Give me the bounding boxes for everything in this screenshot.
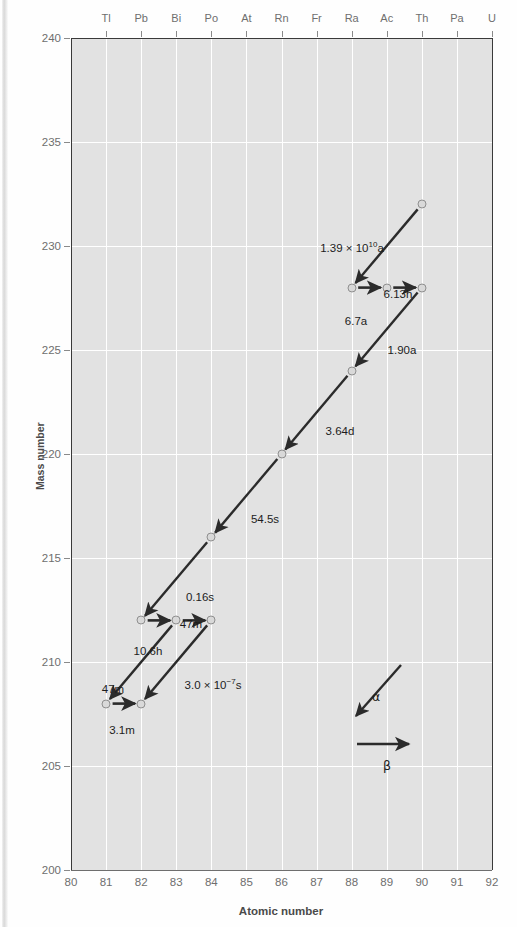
legend-symbol-beta: β bbox=[383, 758, 391, 773]
tick-top bbox=[387, 31, 388, 37]
nuclide-node[interactable] bbox=[207, 616, 216, 625]
halflife-mantissa: 3.0 × 10 bbox=[185, 679, 227, 691]
nuclide-node[interactable] bbox=[137, 616, 146, 625]
nuclide-node[interactable] bbox=[347, 366, 356, 375]
tick-left bbox=[64, 558, 70, 559]
nuclide-node[interactable] bbox=[102, 699, 111, 708]
element-symbol-label: Pb bbox=[134, 12, 147, 24]
y-tick-label: 215 bbox=[31, 552, 61, 564]
tick-top bbox=[457, 31, 458, 37]
x-axis-line bbox=[71, 870, 492, 871]
y-tick-label: 235 bbox=[31, 136, 61, 148]
x-tick-label: 87 bbox=[310, 876, 323, 888]
nuclide-node[interactable] bbox=[417, 283, 426, 292]
page-edge-strip bbox=[2, 0, 8, 927]
halflife-exponent: 10 bbox=[368, 240, 377, 249]
halflife-label: 47m bbox=[102, 683, 124, 695]
tick-top bbox=[492, 31, 493, 37]
gridline-horizontal bbox=[71, 142, 492, 143]
nuclide-node[interactable] bbox=[417, 200, 426, 209]
x-tick-label: 91 bbox=[451, 876, 464, 888]
tick-left bbox=[64, 38, 70, 39]
element-symbol-label: Tl bbox=[101, 12, 110, 24]
element-symbol-label: Pa bbox=[450, 12, 463, 24]
tick-top bbox=[141, 31, 142, 37]
halflife-label: 47m bbox=[180, 618, 202, 630]
element-symbol-label: Rn bbox=[274, 12, 288, 24]
tick-top bbox=[246, 31, 247, 37]
gridline-horizontal bbox=[71, 662, 492, 663]
halflife-label: 1.39 × 1010a bbox=[320, 240, 384, 254]
tick-top bbox=[106, 31, 107, 37]
halflife-label: 0.16s bbox=[186, 591, 214, 603]
y-tick-label: 230 bbox=[31, 240, 61, 252]
halflife-label: 3.1m bbox=[109, 724, 135, 736]
nuclide-node[interactable] bbox=[277, 450, 286, 459]
x-tick-label: 80 bbox=[65, 876, 78, 888]
gridline-horizontal bbox=[71, 246, 492, 247]
tick-left bbox=[64, 142, 70, 143]
halflife-label: 3.0 × 10−7s bbox=[185, 677, 242, 691]
element-symbol-label: Ac bbox=[380, 12, 393, 24]
tick-top bbox=[176, 31, 177, 37]
nuclide-node[interactable] bbox=[207, 533, 216, 542]
halflife-label: 1.90a bbox=[388, 344, 417, 356]
y-tick-label: 205 bbox=[31, 760, 61, 772]
y-tick-label: 240 bbox=[31, 32, 61, 44]
halflife-label: 3.64d bbox=[326, 425, 355, 437]
x-tick-label: 84 bbox=[205, 876, 218, 888]
x-tick-label: 92 bbox=[486, 876, 499, 888]
x-tick-label: 89 bbox=[380, 876, 393, 888]
x-tick-label: 85 bbox=[240, 876, 253, 888]
tick-top bbox=[422, 31, 423, 37]
element-symbol-label: At bbox=[241, 12, 251, 24]
tick-left bbox=[64, 766, 70, 767]
x-tick-label: 90 bbox=[415, 876, 428, 888]
x-tick-label: 81 bbox=[100, 876, 113, 888]
tick-left bbox=[64, 246, 70, 247]
tick-left bbox=[64, 454, 70, 455]
gridline-horizontal bbox=[71, 350, 492, 351]
halflife-label: 10.6h bbox=[134, 645, 163, 657]
gridline-horizontal bbox=[71, 766, 492, 767]
element-symbol-label: Po bbox=[205, 12, 218, 24]
y-tick-label: 210 bbox=[31, 656, 61, 668]
halflife-unit: a bbox=[377, 242, 383, 254]
element-symbol-label: U bbox=[488, 12, 496, 24]
plot-frame-top bbox=[71, 38, 492, 39]
x-axis-title: Atomic number bbox=[239, 905, 323, 917]
element-symbol-label: Bi bbox=[171, 12, 181, 24]
element-symbol-label: Fr bbox=[311, 12, 321, 24]
x-tick-label: 88 bbox=[345, 876, 358, 888]
tick-top bbox=[211, 31, 212, 37]
y-tick-label: 225 bbox=[31, 344, 61, 356]
tick-left bbox=[64, 350, 70, 351]
tick-left bbox=[64, 662, 70, 663]
gridline-horizontal bbox=[71, 558, 492, 559]
halflife-unit: s bbox=[236, 679, 242, 691]
y-axis-title: Mass number bbox=[34, 422, 46, 490]
halflife-mantissa: 1.39 × 10 bbox=[320, 242, 368, 254]
nuclide-node[interactable] bbox=[137, 699, 146, 708]
x-tick-label: 86 bbox=[275, 876, 288, 888]
tick-top bbox=[352, 31, 353, 37]
halflife-label: 54.5s bbox=[251, 513, 279, 525]
tick-left bbox=[64, 870, 70, 871]
x-tick-label: 83 bbox=[170, 876, 183, 888]
plot-frame-right bbox=[492, 38, 493, 870]
halflife-exponent: −7 bbox=[227, 677, 236, 686]
decay-chain-chart: TlPbBiPoAtRnFrRaAcThPaU80818283848586878… bbox=[0, 0, 517, 927]
element-symbol-label: Ra bbox=[345, 12, 359, 24]
y-tick-label: 200 bbox=[31, 864, 61, 876]
legend-symbol-alpha: α bbox=[372, 689, 380, 704]
tick-top bbox=[317, 31, 318, 37]
element-symbol-label: Th bbox=[415, 12, 428, 24]
halflife-label: 6.13h bbox=[384, 288, 413, 300]
halflife-label: 6.7a bbox=[345, 315, 367, 327]
x-tick-label: 82 bbox=[135, 876, 148, 888]
nuclide-node[interactable] bbox=[347, 283, 356, 292]
tick-top bbox=[282, 31, 283, 37]
y-axis-line bbox=[71, 38, 72, 871]
